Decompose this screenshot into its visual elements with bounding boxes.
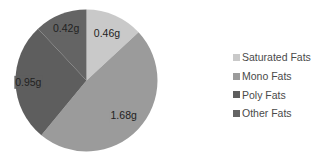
legend-swatch-icon bbox=[233, 73, 240, 80]
legend-swatch-icon bbox=[233, 91, 240, 98]
slice-label-mono-fats: 1.68g bbox=[110, 109, 138, 122]
slice-label-saturated-fats: 0.46g bbox=[93, 27, 121, 40]
chart-legend: Saturated Fats Mono Fats Poly Fats Other… bbox=[233, 48, 311, 123]
slice-label-other-fats: 0.42g bbox=[52, 22, 80, 35]
legend-label: Mono Fats bbox=[242, 70, 292, 82]
legend-label: Poly Fats bbox=[242, 89, 286, 101]
legend-label: Other Fats bbox=[242, 107, 292, 119]
legend-swatch-icon bbox=[233, 54, 240, 61]
legend-item-saturated-fats: Saturated Fats bbox=[233, 48, 311, 67]
legend-swatch-icon bbox=[233, 110, 240, 117]
svg-text:1.68g: 1.68g bbox=[111, 109, 137, 121]
slice-label-poly-fats: 0.95g bbox=[14, 76, 42, 89]
legend-item-poly-fats: Poly Fats bbox=[233, 85, 311, 104]
legend-item-mono-fats: Mono Fats bbox=[233, 67, 311, 86]
legend-label: Saturated Fats bbox=[242, 51, 311, 63]
svg-text:0.95g: 0.95g bbox=[15, 76, 41, 88]
legend-item-other-fats: Other Fats bbox=[233, 104, 311, 123]
svg-text:0.42g: 0.42g bbox=[53, 22, 79, 34]
svg-text:0.46g: 0.46g bbox=[94, 27, 120, 39]
